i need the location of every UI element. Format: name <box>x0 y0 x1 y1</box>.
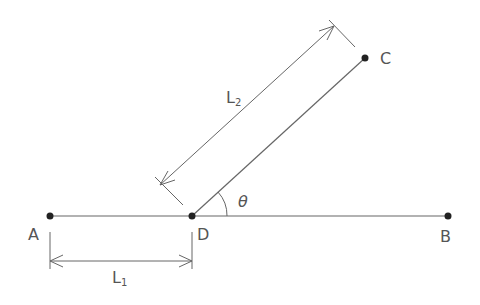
label-theta: θ <box>238 192 248 211</box>
angle-arc <box>218 192 227 216</box>
point-a <box>47 213 54 220</box>
label-l1: L1 <box>112 268 127 288</box>
label-b: B <box>440 227 451 246</box>
label-a: A <box>28 225 39 244</box>
geometry-diagram: A D B C θ L1 L2 <box>0 0 480 305</box>
label-c: C <box>380 49 391 68</box>
point-c <box>362 55 369 62</box>
l2-extension-top <box>329 20 355 47</box>
point-b <box>445 213 452 220</box>
point-d <box>189 213 196 220</box>
label-l2: L2 <box>226 88 241 108</box>
l2-extension-bottom <box>155 177 183 205</box>
l2-dimension-line <box>160 26 334 185</box>
label-d: D <box>197 225 209 244</box>
